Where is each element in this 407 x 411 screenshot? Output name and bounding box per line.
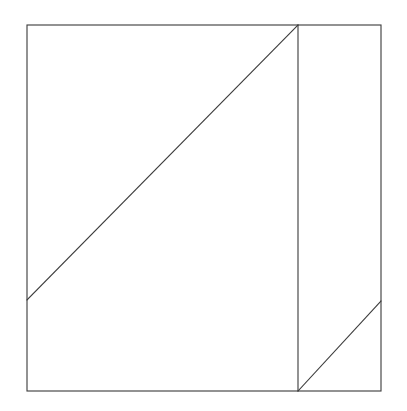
geometric-figure-svg <box>0 0 407 411</box>
figure-canvas <box>0 0 407 411</box>
figure-background <box>0 0 407 411</box>
